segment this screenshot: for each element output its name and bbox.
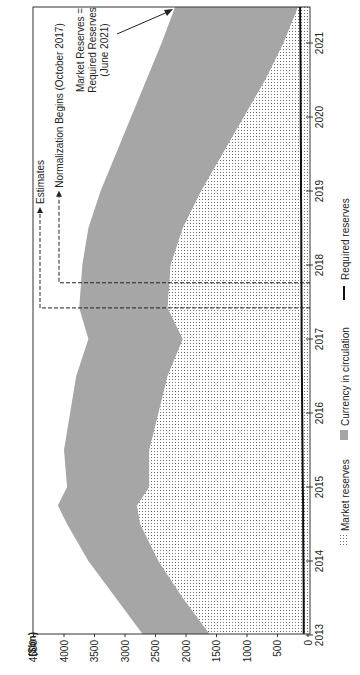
y-tick-label: 2500 [150,640,161,663]
legend-swatch-currency [340,430,348,440]
x-tick-label: 2015 [314,475,325,498]
normalization-label: Normalization Begins (October 2017) [54,23,65,188]
x-tick-label: 2018 [314,253,325,276]
arrow-icon [164,9,173,16]
unit-label: ($bn) [27,632,38,656]
x-tick-label: 2016 [314,401,325,424]
annotation-arrow-line [117,11,170,34]
x-tick-label: 2013 [314,623,325,646]
y-tick-label: 1000 [242,640,253,663]
legend-label-currency: Currency in circulation [340,327,351,426]
arrow-up-icon [56,191,62,197]
market-equals-required-label: Required Reserves [87,7,98,93]
chart: 050010001500200025003000350040004500($bn… [0,0,360,675]
y-tick-label: 0 [303,640,314,646]
y-tick-label: 4000 [59,640,70,663]
x-tick-label: 2014 [314,549,325,572]
y-tick-label: 3000 [120,640,131,663]
y-tick-label: 500 [272,640,283,657]
x-tick-label: 2019 [314,179,325,202]
legend-swatch-market-reserves [340,535,348,545]
x-tick-label: 2021 [314,31,325,54]
y-tick-label: 3500 [89,640,100,663]
legend-label-required-reserves: Required reserves [340,198,351,280]
market-equals-required-label: (June 2021) [99,23,110,76]
estimates-label: Estimates [35,160,46,204]
legend: Market reservesCurrency in circulationRe… [340,198,351,545]
y-tick-label: 1500 [211,640,222,663]
legend-label-market-reserves: Market reserves [340,459,351,531]
y-tick-label: 2000 [181,640,192,663]
x-tick-label: 2017 [314,327,325,350]
plot-area [58,2,308,635]
market-equals-required-label: Market Reserves = [75,8,86,92]
arrow-up-icon [37,207,43,213]
x-tick-label: 2020 [314,105,325,128]
